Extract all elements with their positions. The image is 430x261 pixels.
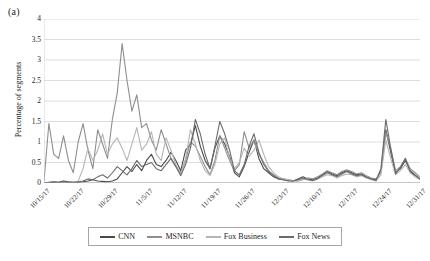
y-tick-label: 3.5	[19, 36, 41, 44]
legend-label: Fox News	[297, 233, 330, 241]
legend-swatch-icon	[147, 236, 162, 238]
y-tick-label: 0	[19, 179, 41, 187]
legend-label: CNN	[118, 233, 135, 241]
x-tick-label: 11/12/17	[153, 187, 188, 222]
legend-swatch-icon	[206, 236, 221, 238]
plot-area	[44, 19, 420, 183]
figure-panel-a: (a) Percentage of segments 00.511.522.53…	[0, 0, 430, 261]
panel-label: (a)	[8, 6, 20, 17]
y-tick-label: 3	[19, 56, 41, 64]
legend-item-msnbc[interactable]: MSNBC	[147, 233, 193, 241]
y-axis-tick-labels: 00.511.522.533.54	[16, 19, 41, 183]
x-tick-label: 10/22/17	[50, 187, 85, 222]
x-tick-label: 12/17/17	[324, 187, 359, 222]
x-tick-label: 12/24/17	[358, 187, 393, 222]
y-tick-label: 2	[19, 97, 41, 105]
legend-item-cnn[interactable]: CNN	[100, 233, 135, 241]
y-tick-label: 1	[19, 138, 41, 146]
y-tick-label: 2.5	[19, 77, 41, 85]
x-tick-label: 11/26/17	[221, 187, 256, 222]
legend-item-fox-news[interactable]: Fox News	[279, 233, 330, 241]
x-tick-label: 10/15/17	[16, 187, 51, 222]
x-tick-label: 11/19/17	[187, 187, 222, 222]
legend-label: Fox Business	[224, 233, 267, 241]
x-tick-label: 11/5/17	[119, 187, 154, 222]
legend-item-fox-business[interactable]: Fox Business	[206, 233, 267, 241]
series-lines	[44, 44, 420, 183]
x-tick-label: 12/3/17	[256, 187, 291, 222]
chart-legend: CNNMSNBCFox BusinessFox News	[88, 227, 342, 246]
legend-swatch-icon	[279, 236, 294, 238]
x-tick-label: 10/29/17	[85, 187, 120, 222]
line-chart-svg	[44, 19, 420, 183]
y-tick-label: 1.5	[19, 118, 41, 126]
y-tick-label: 4	[19, 15, 41, 23]
x-tick-label: 12/31/17	[392, 187, 427, 222]
y-tick-label: 0.5	[19, 159, 41, 167]
legend-label: MSNBC	[165, 233, 193, 241]
legend-swatch-icon	[100, 236, 115, 238]
x-axis-tick-labels: 10/15/1710/22/1710/29/1711/5/1711/12/171…	[44, 183, 420, 223]
x-tick-label: 12/10/17	[290, 187, 325, 222]
